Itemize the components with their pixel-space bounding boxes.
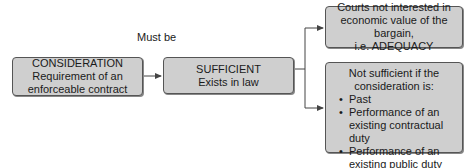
- bullet-item: Performance of an existing public duty: [339, 145, 463, 168]
- node-line: enforceable contract: [28, 83, 128, 96]
- node-line: consideration is:: [354, 80, 434, 93]
- node-title: CONSIDERATION: [32, 57, 123, 70]
- node-consideration: CONSIDERATION Requirement of an enforcea…: [12, 57, 143, 96]
- bullet-item: Performance of an existing contractual d…: [339, 106, 463, 145]
- node-not-sufficient: Not sufficient if the consideration is: …: [325, 62, 463, 153]
- node-sufficient: SUFFICIENT Exists in law: [163, 57, 294, 94]
- bullet-item: Past: [339, 93, 463, 106]
- edge-label-must-be: Must be: [137, 31, 176, 43]
- node-line: economic value of the bargain,: [326, 14, 462, 40]
- node-title: SUFFICIENT: [196, 63, 261, 76]
- bullet-list: Past Performance of an existing contract…: [325, 93, 463, 168]
- node-line: Courts not interested in: [337, 1, 451, 14]
- node-line: Requirement of an: [32, 70, 123, 83]
- node-line: Not sufficient if the: [349, 67, 439, 80]
- node-line: i.e. ADEQUACY: [355, 40, 434, 53]
- node-adequacy: Courts not interested in economic value …: [325, 6, 463, 48]
- node-line: Exists in law: [198, 76, 259, 89]
